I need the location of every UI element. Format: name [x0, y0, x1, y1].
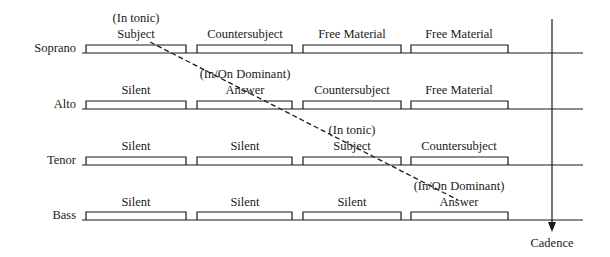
soprano-segment-1: Subject	[117, 27, 155, 41]
tenor-segment-1: Silent	[121, 139, 150, 153]
soprano-segment-2: Countersubject	[207, 27, 283, 41]
alto-segment-1: Silent	[121, 83, 150, 97]
soprano-segment-3: Free Material	[318, 27, 386, 41]
bass-segment-1: Silent	[121, 195, 150, 209]
alto-segment-3: Countersubject	[314, 83, 390, 97]
soprano-box-1	[86, 45, 186, 53]
alto-key-annotation: (In/On Dominant)	[200, 67, 291, 81]
alto-box-1	[86, 101, 186, 109]
alto-box-3	[303, 101, 401, 109]
tenor-segment-3: Subject	[333, 139, 371, 153]
alto-box-4	[411, 101, 508, 109]
tenor-key-annotation: (In tonic)	[329, 123, 376, 137]
voice-label-soprano: Soprano	[6, 41, 76, 55]
soprano-box-3	[303, 45, 401, 53]
bass-box-2	[197, 212, 292, 220]
voice-label-bass: Bass	[6, 208, 76, 222]
bass-box-3	[303, 212, 401, 220]
bass-key-annotation: (In/On Dominant)	[414, 179, 505, 193]
fugue-diagram: Soprano Alto Tenor Bass (In tonic) Subje…	[0, 0, 610, 257]
tenor-segment-2: Silent	[230, 139, 259, 153]
soprano-box-2	[197, 45, 292, 53]
cadence-label: Cadence	[530, 236, 573, 250]
tenor-box-1	[86, 157, 186, 165]
bass-segment-2: Silent	[230, 195, 259, 209]
voice-label-alto: Alto	[6, 97, 76, 111]
tenor-box-4	[411, 157, 508, 165]
soprano-box-4	[411, 45, 508, 53]
bass-box-4	[411, 212, 508, 220]
alto-segment-4: Free Material	[425, 83, 493, 97]
bass-segment-4: Answer	[440, 195, 479, 209]
tenor-segment-4: Countersubject	[421, 139, 497, 153]
arrow-down-icon	[548, 222, 556, 232]
alto-segment-2: Answer	[226, 83, 265, 97]
entry-dashed-line	[150, 42, 458, 200]
soprano-key-annotation: (In tonic)	[113, 11, 160, 25]
voice-label-tenor: Tenor	[6, 153, 76, 167]
bass-box-1	[86, 212, 186, 220]
soprano-segment-4: Free Material	[425, 27, 493, 41]
bass-segment-3: Silent	[337, 195, 366, 209]
diagram-lines	[0, 0, 610, 257]
tenor-box-2	[197, 157, 292, 165]
alto-box-2	[197, 101, 292, 109]
